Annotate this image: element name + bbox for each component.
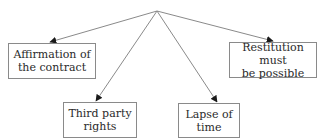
- node-lapse-line1: Lapse of: [185, 108, 232, 121]
- node-restitution-line2: be possible: [230, 67, 316, 80]
- node-restitution: Restitution must be possible: [229, 42, 317, 78]
- node-lapse: Lapse of time: [178, 103, 240, 138]
- node-third-party-line1: Third party: [68, 107, 131, 120]
- node-affirmation-line1: Affirmation of: [13, 48, 90, 61]
- arrow-to-third-party: [96, 11, 157, 101]
- node-affirmation-line2: the contract: [13, 61, 90, 74]
- node-third-party-line2: rights: [68, 120, 131, 133]
- node-restitution-line1: Restitution must: [230, 41, 316, 67]
- node-affirmation: Affirmation of the contract: [8, 43, 96, 79]
- arrow-to-affirmation: [50, 11, 157, 42]
- node-lapse-line2: time: [185, 121, 232, 134]
- node-third-party: Third party rights: [63, 102, 137, 138]
